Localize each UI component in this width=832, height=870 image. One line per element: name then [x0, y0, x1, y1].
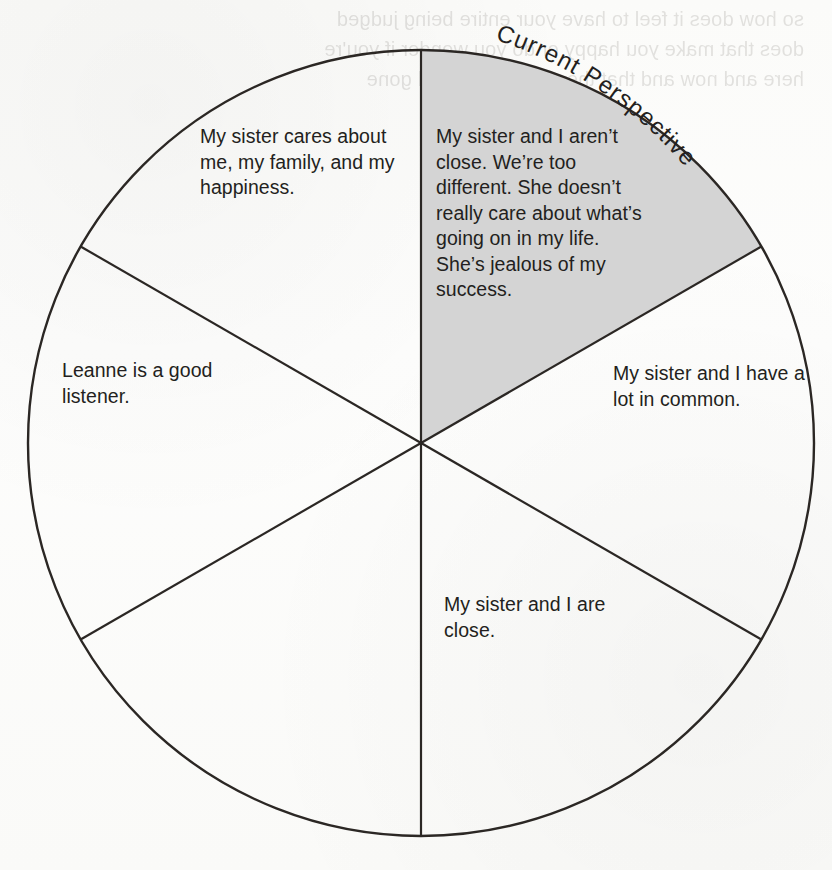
segment-left-text: Leanne is a good listener. [62, 358, 277, 409]
segment-lower-right-text: My sister and I are close. [444, 592, 644, 643]
segment-right-text: My sister and I have a lot in common. [613, 361, 813, 412]
segment-upper-left-text: My sister cares about me, my family, and… [200, 124, 405, 201]
worksheet-page: so how does it feel to have your entire … [0, 0, 832, 870]
perspective-wheel-diagram [0, 0, 832, 870]
segment-current-text: My sister and I aren’t close. We’re too … [436, 124, 651, 303]
